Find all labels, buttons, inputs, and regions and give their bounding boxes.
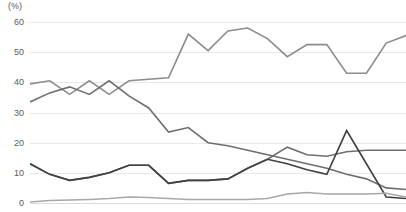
y-tick-label-0: 0 (0, 198, 24, 208)
line-series-rising-top (30, 28, 406, 94)
plot-area (30, 0, 406, 212)
series-lines (30, 28, 406, 202)
plot-svg (30, 0, 406, 212)
y-tick-label-20: 20 (0, 138, 24, 148)
gridlines (30, 23, 406, 204)
y-tick-label-30: 30 (0, 108, 24, 118)
y-axis-tick-labels: 0102030405060 (0, 0, 24, 212)
line-chart: (%) 0102030405060 (0, 0, 406, 212)
y-tick-label-10: 10 (0, 168, 24, 178)
y-tick-label-60: 60 (0, 17, 24, 27)
y-tick-label-40: 40 (0, 77, 24, 87)
line-series-spike-dark (30, 131, 406, 199)
y-tick-label-50: 50 (0, 47, 24, 57)
line-series-baseline (30, 192, 406, 202)
